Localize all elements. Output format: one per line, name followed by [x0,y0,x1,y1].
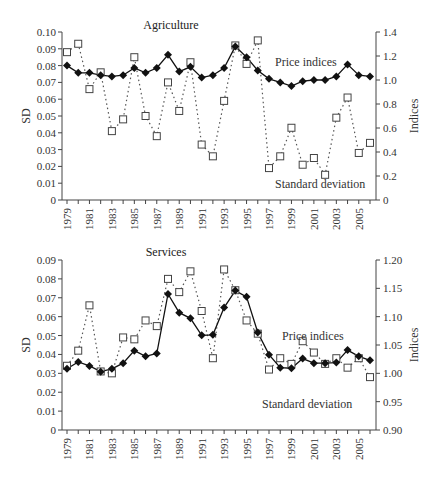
y2-tick-label: 0.6 [383,122,397,134]
x-tick-label: 1979 [61,208,73,231]
y2-tick-label: 0 [383,194,389,206]
sd-marker [131,336,138,343]
y-tick-label: 0.09 [37,254,57,266]
chart-title: Services [146,245,187,259]
y2-tick-label: 1.0 [383,74,397,86]
sd-marker [176,107,183,114]
x-tick-label: 1997 [263,208,275,231]
y-tick-label: 0.08 [37,60,57,72]
x-tick-label: 1985 [128,438,140,461]
y2-axis-title: Indices [407,327,421,362]
sd-marker [75,40,82,47]
price-marker [209,71,217,79]
x-tick-label: 1981 [83,208,95,230]
sd-marker [367,139,374,146]
price-marker [85,362,93,370]
sd-marker [243,60,250,67]
price-marker [164,290,172,298]
price-indices-annotation: Price indices [282,329,344,343]
sd-marker [355,149,362,156]
x-tick-label: 1993 [218,438,230,461]
x-tick-label: 1993 [218,208,230,231]
x-tick-label: 1995 [241,438,253,461]
price-marker [243,293,251,301]
x-tick-label: 2001 [308,208,320,230]
sd-marker [198,308,205,315]
sd-marker [120,116,127,123]
x-tick-label: 1987 [151,208,163,231]
price-marker [287,82,295,90]
price-marker [142,352,150,360]
x-tick-label: 1997 [263,438,275,461]
price-marker [366,356,374,364]
price-marker [153,350,161,358]
sd-marker [165,275,172,282]
y-tick-label: 0.10 [37,26,57,38]
plot-area: 00.010.020.030.040.050.060.070.080.090.9… [19,245,421,460]
sd-marker [344,94,351,101]
sd-marker [142,113,149,120]
y2-tick-label: 1.05 [383,339,403,351]
y2-tick-label: 1.4 [383,26,397,38]
agriculture-chart: 00.010.020.030.040.050.060.070.080.090.1… [0,0,442,240]
price-marker [74,69,82,77]
chart-title: Agriculture [143,18,198,32]
x-tick-label: 1991 [196,438,208,460]
sd-marker [288,124,295,131]
price-marker [310,76,318,84]
y-axis-title: SD [19,108,33,124]
sd-marker [64,49,71,56]
x-tick-label: 1999 [285,438,297,461]
price-marker [175,309,183,317]
y-tick-label: 0.01 [37,177,56,189]
sd-marker [221,266,228,273]
y-tick-label: 0.05 [37,330,57,342]
y2-tick-label: 0.4 [383,146,397,158]
price-marker [321,76,329,84]
x-tick-label: 2001 [308,438,320,460]
standard-deviation-annotation: Standard deviation [262,397,352,411]
price-marker [186,314,194,322]
sd-marker [277,355,284,362]
price-marker [310,359,318,367]
x-tick-label: 1983 [106,438,118,461]
y-tick-label: 0.07 [37,292,57,304]
y2-tick-label: 1.10 [383,311,403,323]
plot-area: 00.010.020.030.040.050.060.070.080.090.1… [19,18,421,230]
y-axis-title: SD [19,337,33,353]
price-marker [142,69,150,77]
y2-axis-title: Indices [407,98,421,133]
price-marker [108,72,116,80]
sd-marker [142,317,149,324]
x-tick-label: 1989 [173,438,185,461]
y-tick-label: 0.09 [37,43,57,55]
sd-marker [266,165,273,172]
x-tick-label: 2003 [330,208,342,231]
y-tick-label: 0 [51,194,57,206]
y2-tick-label: 0.8 [383,98,397,110]
y-tick-label: 0.02 [37,160,56,172]
y2-tick-label: 1.20 [383,254,403,266]
price-marker [85,69,93,77]
sd-marker [153,133,160,140]
sd-marker [243,317,250,324]
sd-marker [209,153,216,160]
price-marker [63,62,71,70]
price-marker [198,331,206,339]
sd-marker [221,97,228,104]
sd-marker [299,161,306,168]
sd-marker [310,349,317,356]
y-tick-label: 0.04 [37,348,57,360]
sd-marker [198,141,205,148]
x-tick-label: 1987 [151,438,163,461]
y-tick-label: 0.06 [37,311,57,323]
y-tick-label: 0.03 [37,367,57,379]
sd-marker [75,347,82,354]
sd-marker [266,366,273,373]
sd-marker [108,128,115,135]
x-tick-label: 1999 [285,208,297,231]
price-marker [366,72,374,80]
sd-marker [187,268,194,275]
y-tick-label: 0.02 [37,386,56,398]
sd-marker [131,54,138,61]
